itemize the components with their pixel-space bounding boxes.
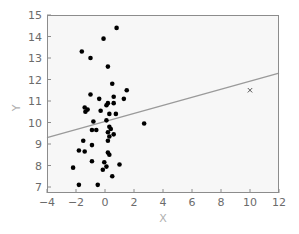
data-point	[98, 108, 103, 113]
data-point	[111, 101, 116, 106]
data-point	[107, 152, 112, 157]
y-tick-label: 11	[28, 95, 42, 108]
y-tick-label: 13	[28, 52, 42, 65]
x-tick-label: −2	[68, 196, 84, 209]
data-point	[82, 149, 87, 154]
y-tick-label: 10	[28, 117, 42, 130]
data-point	[106, 64, 111, 69]
y-axis-title: Y	[10, 104, 23, 112]
x-tick-label: 0	[102, 196, 109, 209]
data-point	[90, 128, 95, 133]
x-tick-label: 6	[189, 196, 196, 209]
y-tick-label: 15	[28, 9, 42, 22]
data-point	[122, 97, 127, 102]
data-point	[104, 164, 109, 169]
data-point	[77, 148, 82, 153]
data-point	[83, 109, 88, 114]
data-point	[95, 183, 100, 188]
data-point	[107, 134, 112, 139]
data-point	[91, 119, 96, 124]
data-point	[88, 56, 93, 61]
data-point	[106, 138, 111, 143]
data-point	[111, 94, 116, 99]
data-point	[90, 159, 95, 164]
data-point	[102, 160, 107, 165]
x-tick-label: 10	[243, 196, 257, 209]
data-point	[106, 130, 111, 135]
data-point	[107, 112, 112, 117]
data-point	[104, 118, 109, 123]
y-tick-label: 7	[35, 181, 42, 194]
x-axis-title: X	[159, 212, 167, 225]
x-tick-label: −4	[39, 196, 55, 209]
data-point	[101, 168, 106, 173]
data-point	[71, 165, 76, 170]
data-point	[90, 143, 95, 148]
x-tick-label: 4	[160, 196, 167, 209]
plot-area	[47, 15, 279, 193]
x-tick-label: 12	[272, 196, 286, 209]
data-point	[110, 82, 115, 87]
data-point	[77, 183, 82, 188]
data-point	[111, 132, 116, 137]
data-point	[124, 88, 129, 93]
y-tick-label: 9	[35, 138, 42, 151]
data-point	[88, 92, 93, 97]
data-point	[142, 121, 147, 126]
data-point	[81, 138, 86, 143]
data-point	[101, 36, 106, 41]
data-point	[114, 26, 119, 31]
y-tick-label: 12	[28, 74, 42, 87]
x-tick-label: 2	[131, 196, 138, 209]
data-point	[110, 174, 115, 179]
data-point	[94, 128, 99, 133]
scatter-chart: −4−2024681012 789101112131415 X Y	[0, 0, 299, 234]
x-tick-label: 8	[218, 196, 225, 209]
y-tick-label: 14	[28, 31, 42, 44]
y-tick-label: 8	[35, 160, 42, 173]
data-point	[97, 97, 102, 102]
data-point	[104, 103, 109, 108]
data-point	[80, 49, 85, 54]
data-point	[114, 112, 119, 117]
data-point	[117, 162, 122, 167]
